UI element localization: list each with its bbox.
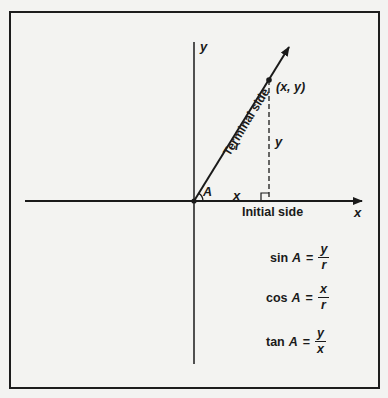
tan-denominator: x	[317, 342, 324, 356]
horizontal-leg-label: x	[233, 189, 240, 202]
x-axis-label: x	[354, 206, 361, 219]
tan-var: A	[289, 335, 298, 349]
hypotenuse-label: r	[235, 140, 240, 152]
angle-label: A	[203, 186, 212, 199]
sin-fraction: y r	[318, 243, 329, 272]
sin-numerator: y	[318, 243, 329, 258]
sin-eq: =	[306, 251, 313, 265]
cos-fraction: x r	[318, 283, 329, 312]
initial-side-label: Initial side	[242, 206, 303, 219]
coordinate-diagram	[0, 0, 388, 398]
y-axis-label: y	[200, 40, 207, 53]
terminal-point	[266, 77, 272, 83]
cos-denominator: r	[321, 298, 326, 312]
right-angle-marker	[261, 193, 269, 201]
vertical-leg-label: y	[275, 135, 282, 148]
cos-fn: cos	[266, 291, 288, 305]
sin-fn: sin	[270, 251, 288, 265]
origin-point	[191, 198, 196, 203]
point-label: (x, y)	[276, 81, 305, 94]
tan-fn: tan	[266, 335, 285, 349]
tan-formula: tan A = y x	[266, 327, 326, 356]
tan-numerator: y	[315, 327, 326, 342]
cos-eq: =	[306, 291, 313, 305]
cos-var: A	[292, 291, 301, 305]
tan-fraction: y x	[315, 327, 326, 356]
sin-var: A	[292, 251, 301, 265]
cos-formula: cos A = x r	[266, 283, 329, 312]
sin-formula: sin A = y r	[270, 243, 329, 272]
cos-numerator: x	[318, 283, 329, 298]
tan-eq: =	[303, 335, 310, 349]
sin-denominator: r	[321, 258, 326, 272]
